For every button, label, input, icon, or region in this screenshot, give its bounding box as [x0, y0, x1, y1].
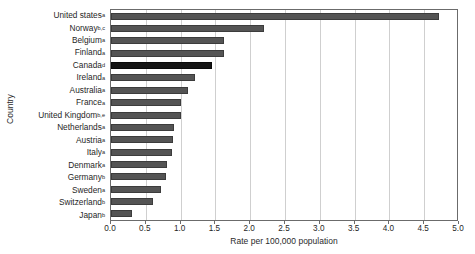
- bar: [111, 37, 224, 44]
- category-label-list: United statesaNorwayb,cBelgiumaFinlandaC…: [14, 9, 108, 221]
- bar-row: [111, 84, 457, 96]
- bar: [111, 161, 167, 168]
- category-label: Japanb: [14, 209, 108, 221]
- bar-row: [111, 72, 457, 84]
- category-label-text: France: [76, 98, 102, 106]
- bar: [111, 149, 172, 156]
- category-label-text: United Kingdom: [38, 111, 97, 119]
- bar: [111, 13, 439, 20]
- category-label: United statesa: [14, 9, 108, 21]
- x-axis-tick-label: 0.0: [104, 224, 115, 233]
- category-label-text: Norway: [69, 24, 97, 32]
- bar: [111, 112, 181, 119]
- bar-row: [111, 47, 457, 59]
- bar: [111, 74, 195, 81]
- bar-row: [111, 171, 457, 183]
- bar-row: [111, 35, 457, 47]
- bar: [111, 62, 212, 69]
- category-label-text: Japan: [79, 211, 102, 219]
- bar: [111, 198, 153, 205]
- x-axis-tick-label: 3.5: [348, 224, 359, 233]
- x-axis-tick-label: 3.0: [313, 224, 324, 233]
- bar-row: [111, 195, 457, 207]
- category-label: Norwayb,c: [14, 21, 108, 33]
- category-label: Belgiuma: [14, 34, 108, 46]
- category-label: Finlanda: [14, 46, 108, 58]
- category-label: Swedena: [14, 184, 108, 196]
- x-axis-tick-label: 4.5: [417, 224, 428, 233]
- x-axis-title: Rate per 100,000 population: [110, 236, 458, 246]
- category-label: United Kingdomb,e: [14, 109, 108, 121]
- category-label-text: Belgium: [72, 36, 102, 44]
- category-label: Germanyb: [14, 171, 108, 183]
- bar-row: [111, 59, 457, 71]
- bar-row: [111, 146, 457, 158]
- category-label-text: United states: [53, 11, 101, 19]
- bar: [111, 186, 161, 193]
- category-label-text: Denmark: [68, 161, 102, 169]
- bar-row: [111, 22, 457, 34]
- bar: [111, 136, 173, 143]
- category-label-text: Australia: [70, 86, 102, 94]
- bar: [111, 210, 132, 217]
- category-label-text: Switzerland: [59, 198, 102, 206]
- x-axis-tick-label: 1.5: [209, 224, 220, 233]
- category-label: Irelanda: [14, 71, 108, 83]
- x-axis-tick-label: 5.0: [452, 224, 463, 233]
- bar: [111, 124, 174, 131]
- category-label: Canadad: [14, 59, 108, 71]
- bar: [111, 50, 224, 57]
- category-label: Switzerlandb: [14, 196, 108, 208]
- bar-row: [111, 10, 457, 22]
- x-axis-tick-label: 4.0: [383, 224, 394, 233]
- bar-row: [111, 208, 457, 220]
- bar-row: [111, 97, 457, 109]
- bar-row: [111, 158, 457, 170]
- bar: [111, 25, 264, 32]
- bar-row: [111, 183, 457, 195]
- x-axis-tick-label: 0.5: [139, 224, 150, 233]
- bar-row: [111, 121, 457, 133]
- x-axis-tick-label: 2.5: [278, 224, 289, 233]
- bar-chart: Country United statesaNorwayb,cBelgiumaF…: [0, 0, 475, 254]
- category-label-text: Finland: [75, 48, 102, 56]
- category-label-text: Italy: [87, 148, 102, 156]
- category-label: Denmarka: [14, 159, 108, 171]
- category-label-text: Germany: [68, 173, 102, 181]
- category-label-text: Ireland: [77, 73, 102, 81]
- x-axis-tick-label: 1.0: [174, 224, 185, 233]
- category-label-text: Austria: [76, 136, 102, 144]
- category-label-text: Netherlands: [57, 123, 102, 131]
- bar-row: [111, 109, 457, 121]
- category-label: Italya: [14, 146, 108, 158]
- category-label: Netherlandsa: [14, 121, 108, 133]
- bar: [111, 87, 188, 94]
- bar: [111, 173, 166, 180]
- category-label-text: Canada: [73, 61, 102, 69]
- bar-series: [111, 10, 457, 220]
- category-label: Francea: [14, 96, 108, 108]
- x-axis-tick-label: 2.0: [243, 224, 254, 233]
- bar-row: [111, 134, 457, 146]
- bar: [111, 99, 181, 106]
- plot-area: [110, 9, 458, 221]
- x-axis-ticks: 0.00.51.01.52.02.53.03.54.04.55.0: [110, 221, 458, 231]
- category-label: Australiaa: [14, 84, 108, 96]
- category-label-text: Sweden: [72, 186, 102, 194]
- category-label: Austriaa: [14, 134, 108, 146]
